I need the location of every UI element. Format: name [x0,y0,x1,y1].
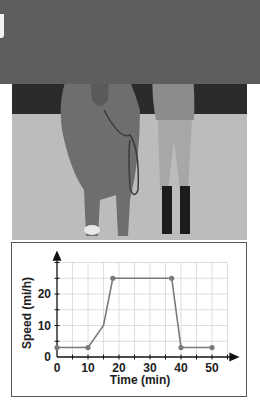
x-axis-label: Time (min) [110,373,170,387]
data-point-marker [169,276,174,281]
y-tick-label: 20 [38,287,52,301]
x-tick-label: 10 [81,361,95,375]
data-point-marker [178,345,183,350]
data-point-marker [85,345,90,350]
banner-letter-fragment [0,14,4,38]
y-tick-label: 10 [38,319,52,333]
chart-grid [57,263,228,358]
chart-axes [54,252,239,361]
data-point-marker [54,345,59,350]
x-axis-arrow-icon [230,354,238,361]
top-banner [0,0,260,84]
chart-svg: 01020304050 01020 Time (min) Speed (mi/h… [12,243,246,396]
x-tick-label: 0 [54,361,61,375]
y-axis-arrow-icon [54,252,61,260]
data-point-marker [209,345,214,350]
data-point-marker [110,276,115,281]
x-tick-label: 40 [174,361,188,375]
y-tick-label: 0 [44,350,51,364]
chart-ticks [55,263,228,360]
horse-photo [12,84,247,240]
y-tick-labels: 01020 [38,287,52,364]
speed-time-chart: 01020304050 01020 Time (min) Speed (mi/h… [11,242,247,397]
y-axis-label: Speed (mi/h) [20,277,34,349]
x-tick-label: 50 [205,361,219,375]
photo-illustration [12,84,247,240]
